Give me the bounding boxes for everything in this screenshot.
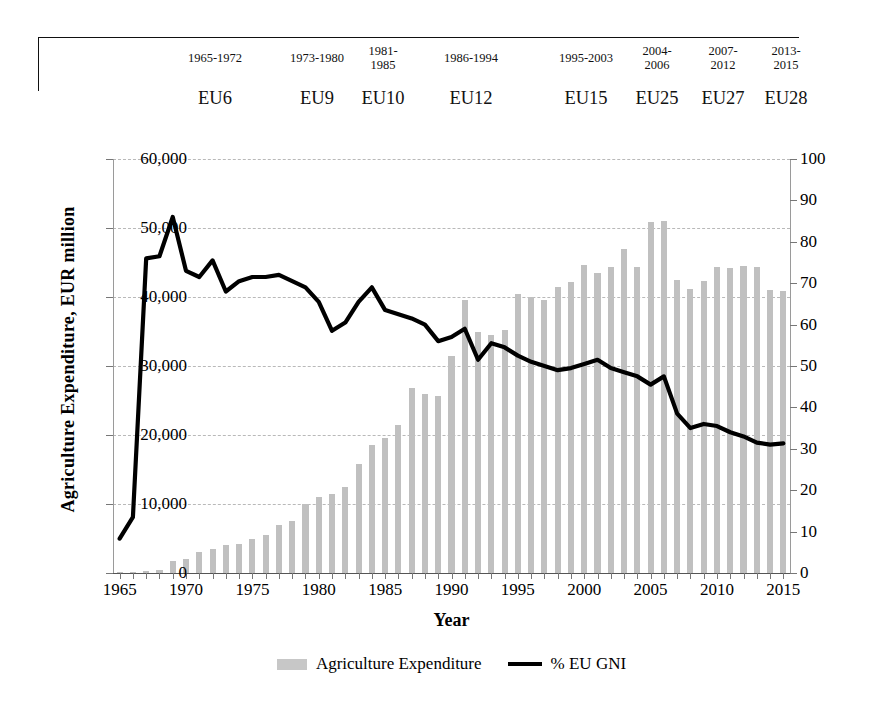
- enlargement-header: 1965-19721973-19801981-19851986-19941995…: [0, 0, 870, 130]
- x-tick: [704, 573, 705, 579]
- era-range-eu12: 1986-1994: [416, 51, 526, 65]
- era-name-eu28: EU28: [746, 88, 826, 108]
- y-tick-right: [790, 573, 797, 574]
- legend-item-agriculture-expenditure: Agriculture Expenditure: [277, 654, 482, 674]
- y-tick-label-left: 0: [179, 564, 188, 581]
- x-tick-label: 1970: [156, 581, 216, 599]
- x-tick: [465, 573, 466, 579]
- x-tick: [690, 573, 691, 579]
- y-tick-left: [106, 297, 113, 298]
- x-tick: [133, 573, 134, 579]
- x-tick: [359, 573, 360, 579]
- x-tick: [531, 573, 532, 579]
- y-tick-right: [790, 325, 797, 326]
- chart: 010,00020,00030,00040,00050,00060,000 01…: [0, 132, 870, 707]
- x-axis-title: Year: [113, 610, 790, 631]
- x-tick: [345, 573, 346, 579]
- era-range-eu10: 1981-1985: [352, 44, 414, 72]
- chart-legend: Agriculture Expenditure % EU GNI: [113, 647, 790, 681]
- x-tick: [571, 573, 572, 579]
- y-tick-label-right: 90: [800, 191, 817, 208]
- y-tick-label-right: 10: [800, 523, 817, 540]
- legend-label-agriculture-expenditure: Agriculture Expenditure: [316, 654, 482, 674]
- x-tick: [558, 573, 559, 579]
- x-tick: [385, 573, 386, 579]
- y-tick-label-right: 60: [800, 316, 817, 333]
- x-tick: [438, 573, 439, 579]
- x-tick: [611, 573, 612, 579]
- y-tick-label-right: 40: [800, 398, 817, 415]
- y-tick-label-right: 70: [800, 274, 817, 291]
- y-tick-label-right: 0: [800, 564, 809, 581]
- x-tick: [305, 573, 306, 579]
- x-tick-label: 2010: [687, 581, 747, 599]
- x-tick: [252, 573, 253, 579]
- legend-label-eu-gni: % EU GNI: [551, 654, 627, 674]
- y-tick-left: [106, 573, 113, 574]
- x-tick-label: 1980: [289, 581, 349, 599]
- y-tick-label-right: 80: [800, 233, 817, 250]
- y-tick-left: [106, 366, 113, 367]
- era-range-eu6: 1965-1972: [160, 51, 270, 65]
- x-tick: [770, 573, 771, 579]
- x-tick: [651, 573, 652, 579]
- x-tick: [213, 573, 214, 579]
- y-tick-left: [106, 228, 113, 229]
- line-path-eu-gni: [113, 159, 790, 573]
- era-range-eu28: 2013-2015: [756, 44, 816, 72]
- y-tick-label-left: 50,000: [140, 219, 187, 236]
- y-tick-label-right: 100: [800, 150, 826, 167]
- x-tick: [783, 573, 784, 579]
- y-tick-label-right: 50: [800, 357, 817, 374]
- y-tick-right: [790, 159, 797, 160]
- x-tick: [372, 573, 373, 579]
- x-tick: [398, 573, 399, 579]
- era-range-eu27: 2007-2012: [693, 44, 753, 72]
- x-tick: [478, 573, 479, 579]
- x-tick: [159, 573, 160, 579]
- y-tick-label-left: 60,000: [140, 150, 187, 167]
- x-tick-label: 1985: [355, 581, 415, 599]
- x-tick: [146, 573, 147, 579]
- y-axis-title-wrap: Agriculture Expenditure, EUR million: [38, 159, 64, 573]
- x-tick: [173, 573, 174, 579]
- x-tick: [120, 573, 121, 579]
- era-name-eu6: EU6: [160, 88, 270, 108]
- y-tick-right: [790, 242, 797, 243]
- x-tick-label: 1995: [488, 581, 548, 599]
- y-tick-right: [790, 490, 797, 491]
- x-tick: [518, 573, 519, 579]
- y-tick-right: [790, 283, 797, 284]
- x-tick: [412, 573, 413, 579]
- era-range-eu25: 2004-2006: [627, 44, 687, 72]
- era-name-eu12: EU12: [416, 88, 526, 108]
- y-tick-right: [790, 532, 797, 533]
- era-range-eu15: 1995-2003: [531, 51, 641, 65]
- legend-item-eu-gni: % EU GNI: [508, 654, 627, 674]
- y-tick-left: [106, 159, 113, 160]
- y-axis-title: Agriculture Expenditure, EUR million: [58, 160, 79, 560]
- y-tick-right: [790, 200, 797, 201]
- x-tick: [730, 573, 731, 579]
- x-tick: [717, 573, 718, 579]
- y-tick-left: [106, 435, 113, 436]
- x-tick: [757, 573, 758, 579]
- x-tick-label: 2000: [554, 581, 614, 599]
- x-tick: [544, 573, 545, 579]
- x-tick: [624, 573, 625, 579]
- era-name-eu10: EU10: [342, 88, 424, 108]
- x-tick: [239, 573, 240, 579]
- x-tick-label: 1965: [90, 581, 150, 599]
- y-tick-right: [790, 449, 797, 450]
- y-axis-left: [113, 159, 114, 573]
- y-tick-label-left: 10,000: [140, 495, 187, 512]
- x-tick: [677, 573, 678, 579]
- legend-bar-swatch-icon: [277, 659, 307, 670]
- x-tick: [266, 573, 267, 579]
- y-tick-label-left: 20,000: [140, 426, 187, 443]
- y-tick-label-left: 40,000: [140, 288, 187, 305]
- y-tick-right: [790, 366, 797, 367]
- x-tick: [664, 573, 665, 579]
- x-tick: [425, 573, 426, 579]
- x-tick: [319, 573, 320, 579]
